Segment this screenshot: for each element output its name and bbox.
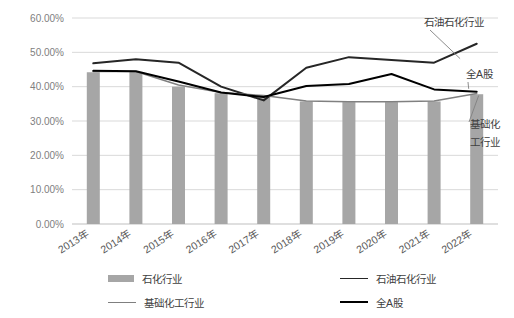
annotation-leader-all-a	[468, 82, 469, 89]
y-tick-label: 10.00%	[30, 184, 64, 195]
legend-item-quanagu: 全A股	[340, 295, 403, 310]
x-tick-label: 2018年	[269, 228, 304, 256]
legend-line-swatch-dark-icon	[340, 278, 368, 279]
annotation-basic-line1: 基础化	[470, 118, 501, 130]
y-tick-label: 60.00%	[30, 13, 64, 24]
annotation-petro: 石油石化行业	[424, 16, 484, 28]
y-tick-label: 50.00%	[30, 47, 64, 58]
bar-series-shihua	[87, 72, 483, 224]
legend-bar-swatch-icon	[108, 275, 134, 282]
bar	[300, 101, 313, 224]
bar	[172, 87, 185, 224]
x-tick-label: 2020年	[354, 228, 389, 256]
x-tick-label: 2014年	[98, 228, 133, 256]
x-axis-tick-labels: 2013年2014年2015年2016年2017年2018年2019年2020年…	[56, 228, 474, 256]
legend-label-shiyoushihua: 石油石化行业	[376, 271, 436, 286]
annotation-basic-line2: 工行业	[470, 136, 500, 148]
bar	[87, 72, 100, 224]
x-tick-label: 2021年	[397, 228, 432, 256]
bar	[385, 102, 398, 224]
x-tick-label: 2017年	[226, 228, 261, 256]
x-tick-label: 2015年	[141, 228, 176, 256]
bar	[215, 93, 228, 224]
legend-row-2: 基础化工行业 全A股	[108, 290, 508, 314]
legend-item-shiyoushihua: 石油石化行业	[340, 271, 436, 286]
legend-item-jichuhuagong: 基础化工行业	[108, 295, 340, 310]
legend-line-swatch-black-icon	[340, 301, 368, 303]
bar	[257, 96, 270, 224]
legend-label-shihua: 石化行业	[142, 271, 182, 286]
y-axis-tick-labels: 60.00%50.00%40.00%30.00%20.00%10.00%0.00…	[30, 13, 64, 230]
y-tick-label: 40.00%	[30, 81, 64, 92]
bar	[342, 102, 355, 224]
annotation-leader-petro	[430, 30, 460, 59]
chart-container: 60.00%50.00%40.00%30.00%20.00%10.00%0.00…	[0, 0, 514, 318]
legend-label-jichuhuagong: 基础化工行业	[144, 295, 204, 310]
x-tick-label: 2022年	[439, 228, 474, 256]
chart-legend: 石化行业 石油石化行业 基础化工行业 全A股	[108, 266, 508, 314]
y-tick-label: 0.00%	[36, 219, 64, 230]
annotation-all-a: 全A股	[466, 68, 494, 80]
legend-row-1: 石化行业 石油石化行业	[108, 266, 508, 290]
legend-line-swatch-gray-icon	[108, 302, 136, 303]
y-tick-label: 20.00%	[30, 150, 64, 161]
legend-label-quanagu: 全A股	[376, 295, 403, 310]
x-tick-label: 2016年	[184, 228, 219, 256]
y-tick-label: 30.00%	[30, 116, 64, 127]
bar	[428, 101, 441, 224]
legend-item-shihua: 石化行业	[108, 271, 340, 286]
bar	[129, 72, 142, 224]
x-tick-label: 2019年	[311, 228, 346, 256]
x-tick-label: 2013年	[56, 228, 91, 256]
